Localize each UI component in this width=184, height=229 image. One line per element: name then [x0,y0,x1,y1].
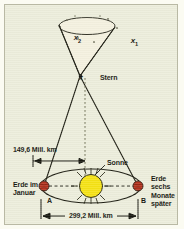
label-star-point: x [79,74,83,82]
earth-six-months-marker [133,181,143,191]
parallax-figure: x2 x1 x Stern 149,6 Mill. km Sonne Erde … [0,0,184,229]
dimension-149 [33,155,85,167]
label-sonne: Sonne [107,159,128,167]
label-erde-sechs-monate: Erde sechs Monate später [151,175,175,209]
label-erde-januar: Erde im Januar [13,181,38,198]
label-x2: x2 [61,26,81,54]
figure-panel: x2 x1 x Stern 149,6 Mill. km Sonne Erde … [4,4,178,225]
label-x1: x1 [118,29,138,57]
label-distance-sun-earth: 149,6 Mill. km [13,146,57,154]
label-point-a: A [47,197,52,205]
label-stern: Stern [100,74,117,82]
sun-disc [80,175,103,198]
label-distance-orbit: 299,2 Mill. km [69,212,113,220]
earth-january-marker [39,181,49,191]
label-point-b: B [141,197,146,205]
